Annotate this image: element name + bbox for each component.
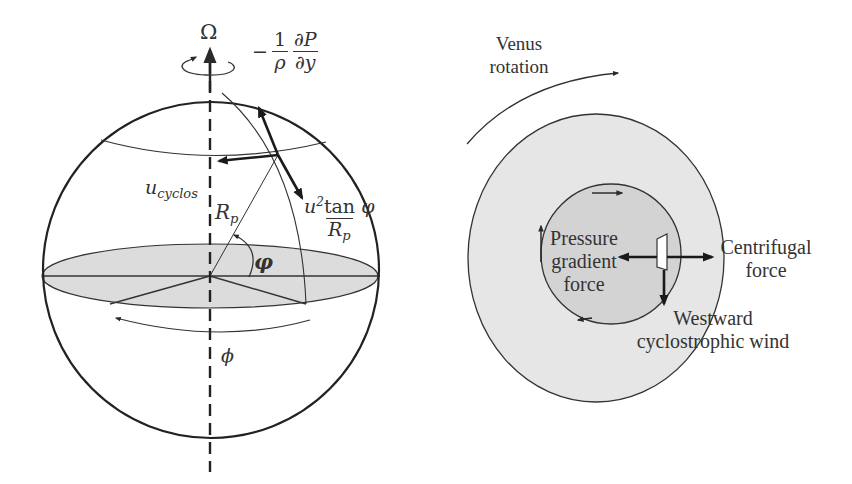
u-symbol: u — [145, 176, 157, 198]
venus-rotation-label: Venus rotation — [478, 32, 560, 78]
latitude-circle — [101, 140, 326, 156]
centrifugal-denominator: Rp — [326, 218, 353, 242]
radius-subscript: p — [230, 211, 238, 226]
pressure-line1: Pressure — [541, 227, 627, 250]
venus-rotation-line2: rotation — [478, 55, 560, 78]
numerator: 1 — [272, 30, 288, 51]
westward-wind-label: Westward cyclostrophic wind — [628, 307, 798, 353]
sphere-diagram — [42, 50, 380, 472]
centrifugal-term-label: u2tan φ Rp — [302, 196, 376, 242]
radius-symbol: R — [328, 218, 342, 240]
air-parcel — [657, 234, 667, 270]
venus-rotation-line1: Venus — [478, 32, 560, 55]
rotation-curl-arrowhead — [190, 57, 196, 60]
pressure-gradient-force-label: Pressure gradient force — [541, 227, 627, 296]
fraction-centrifugal: u2tan φ Rp — [302, 196, 376, 242]
denominator: ρ — [272, 51, 287, 72]
numerator: ∂P — [292, 30, 319, 51]
denominator: ∂y — [293, 51, 318, 72]
radius-subscript: p — [342, 228, 350, 243]
rotation-curl-icon — [182, 60, 234, 75]
omega-label: Ω — [200, 22, 217, 43]
centrifugal-line1: Centrifugal — [716, 236, 816, 259]
pressure-line2: gradient — [541, 250, 627, 273]
tan-function: tan — [324, 195, 361, 217]
wind-line2: cyclostrophic wind — [628, 330, 798, 353]
centrifugal-force-label: Centrifugal force — [716, 236, 816, 282]
latitude-label: φ — [254, 251, 273, 272]
pressure-line3: force — [541, 273, 627, 296]
phi-symbol: φ — [361, 195, 374, 217]
fraction-one-over-rho: 1 ρ — [272, 30, 288, 72]
centrifugal-numerator: u2tan φ — [302, 196, 376, 218]
minus-sign: − — [252, 42, 268, 61]
longitude-label: ϕ — [221, 346, 234, 365]
radius-symbol: R — [215, 200, 230, 224]
longitude-arrow — [116, 318, 310, 332]
radius-label: Rp — [215, 202, 238, 225]
u-symbol: u — [304, 195, 316, 217]
centrifugal-vector — [278, 155, 302, 198]
exponent: 2 — [316, 195, 324, 209]
centrifugal-line2: force — [716, 259, 816, 282]
u-subscript: cyclos — [157, 186, 198, 201]
pressure-gradient-label: − 1 ρ ∂P ∂y — [252, 30, 319, 72]
u-cyclos-label: ucyclos — [145, 178, 198, 200]
fraction-dp-over-dy: ∂P ∂y — [292, 30, 319, 72]
wind-line1: Westward — [628, 307, 798, 330]
